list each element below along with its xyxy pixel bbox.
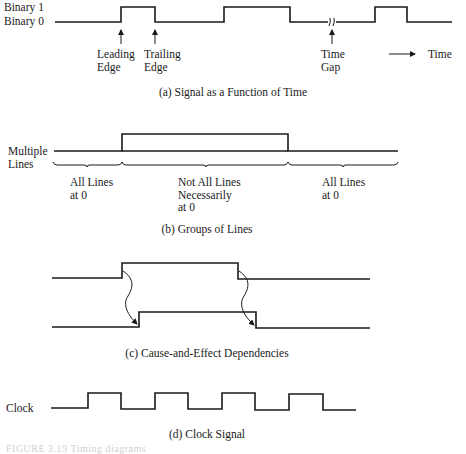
clock-waveform: [51, 393, 356, 410]
cause-effect-arrow-rising-icon: [123, 271, 137, 324]
caption-c: (c) Cause-and-Effect Dependencies: [0, 347, 414, 360]
caption-b: (b) Groups of Lines: [0, 223, 414, 236]
caption-d: (d) Clock Signal: [0, 428, 414, 441]
time-gap-break-icon: [329, 18, 334, 26]
region-label-right: All Lines at 0: [322, 176, 365, 201]
binary-1-label: Binary 1: [4, 1, 44, 14]
trailing-edge-label: Trailing Edge: [144, 48, 181, 73]
signal-waveform-a: [55, 7, 452, 22]
multiple-lines-label: Multiple Lines: [8, 145, 48, 170]
clock-label: Clock: [6, 402, 33, 415]
multiple-lines-waveform: [54, 134, 398, 151]
region-brace: [53, 162, 398, 167]
region-label-left: All Lines at 0: [70, 176, 113, 201]
region-label-middle: Not All Lines Necessarily at 0: [178, 176, 241, 214]
time-gap-label: Time Gap: [321, 48, 345, 73]
cause-waveform: [52, 263, 370, 279]
caption-a: (a) Signal as a Function of Time: [0, 86, 466, 99]
effect-waveform: [52, 312, 370, 328]
binary-0-label: Binary 0: [4, 15, 44, 28]
figure-caption: FIGURE 3.19 Timing diagrams: [6, 443, 146, 454]
leading-edge-label: Leading Edge: [97, 48, 135, 73]
time-axis-label: Time: [428, 48, 452, 61]
